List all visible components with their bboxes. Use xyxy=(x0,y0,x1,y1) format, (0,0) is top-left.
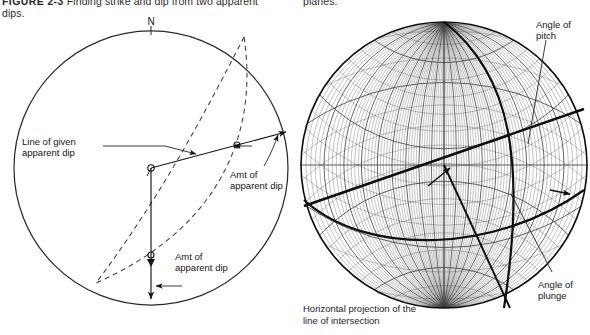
dashed-great-circle-plane-2 xyxy=(96,37,247,283)
right-wulff-net-diagram: Angle of pitch Angle of plunge xyxy=(298,14,590,314)
label-line-of-given-apparent-dip-l2: apparent dip xyxy=(22,147,75,158)
label-amt-apparent-dip-bottom-l2: apparent dip xyxy=(175,262,228,273)
arrowhead-lower-marker xyxy=(147,259,155,267)
label-angle-of-pitch-l2: pitch xyxy=(536,30,556,41)
figure-caption-left: FIGURE 2-3 Finding strike and dip from t… xyxy=(2,0,287,19)
label-amt-apparent-dip-right-l1: Amt of xyxy=(230,169,258,180)
label-amt-apparent-dip-bottom-l1: Amt of xyxy=(175,251,203,262)
label-angle-of-pitch-l1: Angle of xyxy=(536,19,571,30)
label-angle-of-plunge-l2: plunge xyxy=(538,290,567,301)
figure-caption-right: planes. xyxy=(303,0,583,7)
dashed-great-circle-plane-1 xyxy=(96,37,244,283)
left-construction-diagram: N Line of given apparent dip Amt of appa… xyxy=(0,18,300,318)
figure-page: FIGURE 2-3 Finding strike and dip from t… xyxy=(0,0,590,335)
label-line-of-given-apparent-dip-l1: Line of given xyxy=(22,136,76,147)
figure-number: FIGURE 2-3 xyxy=(2,0,64,7)
leader-arrow-given-apparent-dip xyxy=(165,146,196,154)
label-angle-of-plunge-l1: Angle of xyxy=(538,279,573,290)
amt-dip-right-curved-arrow xyxy=(264,135,278,166)
label-amt-apparent-dip-right-l2: apparent dip xyxy=(230,180,283,191)
north-label: N xyxy=(147,16,154,27)
